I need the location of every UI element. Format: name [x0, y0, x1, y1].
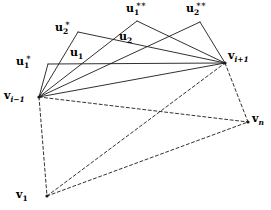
dashed-edge-group [39, 63, 248, 196]
label-u1-star-superscript: ∗ [26, 52, 31, 62]
vertex-marker-v-n [246, 120, 249, 123]
edge-vim1-to-u2star [39, 32, 78, 97]
edge-u2star-to-vip1 [78, 32, 225, 63]
geometry-diagram: u1∗u2∗u1u2u1∗∗u2∗∗vi−1vi+1vnv1 [0, 0, 271, 210]
label-v-1-subscript: 1 [22, 194, 27, 203]
label-u2: u2 [119, 31, 132, 42]
label-u1-dstar: u1∗∗ [126, 3, 149, 14]
edge-vim1-to-v1 [39, 97, 47, 196]
label-u2-dstar-base: u [186, 2, 194, 15]
label-u2-base: u [119, 30, 127, 43]
vertex-marker-v-im1 [37, 95, 40, 98]
label-u1-star-base: u [16, 55, 24, 68]
edge-vim1-to-vip1 [39, 63, 225, 97]
vertex-marker-group [37, 61, 249, 197]
label-v-n: vn [252, 113, 264, 124]
edge-u1star-to-vip1 [48, 63, 225, 64]
label-u2-star-superscript: ∗ [65, 18, 70, 28]
label-u1-base: u [70, 46, 78, 59]
label-u2-dstar-superscript: ∗∗ [196, 0, 206, 9]
label-u1-subscript: 1 [78, 52, 83, 61]
label-u1-dstar-base: u [126, 2, 134, 15]
edge-vim1-to-u1star [39, 64, 48, 97]
label-v-i-plus-1-subscript: i+1 [234, 55, 248, 64]
label-u1-star: u1∗ [16, 56, 34, 67]
label-v-1: v1 [16, 189, 28, 200]
label-u1-dstar-superscript: ∗∗ [136, 0, 146, 9]
vertex-marker-v-ip1 [223, 61, 226, 64]
label-v-i-plus-1: vi+1 [228, 50, 249, 61]
edge-vim1-to-vn [39, 97, 248, 122]
edge-vip1-to-vn [225, 63, 248, 122]
label-v-n-subscript: n [258, 118, 263, 127]
edge-v1-to-vn [47, 122, 248, 196]
label-u2-star: u2∗ [55, 22, 73, 33]
label-u2-star-base: u [55, 21, 63, 34]
edge-v1-to-vip1 [47, 63, 225, 196]
label-v-i-minus-1-subscript: i−1 [10, 95, 24, 104]
label-u2-dstar: u2∗∗ [186, 3, 209, 14]
diagram-canvas [0, 0, 271, 210]
label-v-i-minus-1: vi−1 [4, 90, 25, 101]
vertex-marker-v-1 [45, 194, 48, 197]
label-u1: u1 [70, 47, 83, 58]
label-u2-subscript: 2 [127, 36, 132, 45]
